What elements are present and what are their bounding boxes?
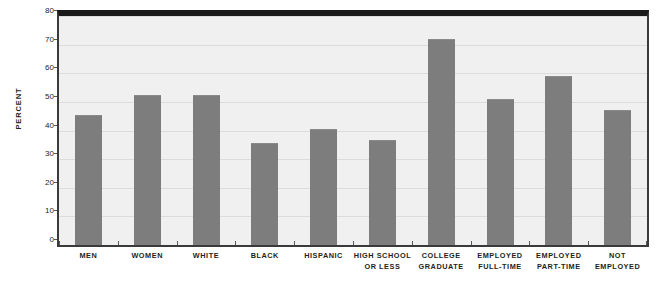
x-tick-mark: [412, 241, 413, 245]
plot-inner: [59, 16, 647, 245]
x-axis-category-label: Black: [235, 250, 294, 261]
bar: [310, 129, 337, 246]
x-tick-mark: [588, 241, 589, 245]
x-axis-category-label: EmployedFull-time: [471, 250, 530, 272]
x-tick-mark: [646, 241, 647, 245]
x-axis-category-label: Men: [59, 250, 118, 261]
x-label-line-1: High School: [354, 251, 412, 260]
x-label-line-1: College: [422, 251, 461, 260]
x-axis-category-label: EmployedPart-time: [529, 250, 588, 272]
x-axis-category-label: Hispanic: [294, 250, 353, 261]
x-label-line-1: Not: [609, 251, 626, 260]
bar: [134, 95, 161, 245]
x-axis-labels: MenWomenWhiteBlackHispanicHigh Schoolor …: [59, 250, 647, 290]
bar: [251, 143, 278, 245]
y-tick-label: 80: [28, 6, 54, 15]
x-label-line-1: White: [193, 251, 219, 260]
x-tick-mark: [294, 241, 295, 245]
x-tick-mark: [235, 241, 236, 245]
x-tick-mark: [59, 241, 60, 245]
y-tick-label: 70: [28, 35, 54, 44]
x-axis-category-label: High Schoolor Less: [353, 250, 412, 272]
y-tick-label: 0: [28, 235, 54, 244]
bar: [487, 99, 514, 245]
x-label-line-2: Full-time: [471, 261, 530, 272]
x-label-line-1: Hispanic: [304, 251, 343, 260]
x-axis-ticks: [59, 241, 647, 246]
x-tick-mark: [353, 241, 354, 245]
bar: [193, 95, 220, 245]
x-label-line-2: Employed: [588, 261, 647, 272]
y-tick-label: 50: [28, 92, 54, 101]
bar: [545, 76, 572, 245]
plot-area: [57, 10, 649, 247]
x-label-line-1: Women: [131, 251, 163, 260]
y-tick-label: 10: [28, 206, 54, 215]
gridline: [59, 16, 647, 17]
x-label-line-2: Part-time: [529, 261, 588, 272]
y-tick-label: 60: [28, 63, 54, 72]
x-label-line-1: Employed: [477, 251, 522, 260]
x-tick-mark: [529, 241, 530, 245]
bar: [75, 115, 102, 245]
x-label-line-1: Men: [79, 251, 97, 260]
bar-chart-figure: Percent 01020304050607080 MenWomenWhiteB…: [0, 0, 667, 292]
x-axis-category-label: NotEmployed: [588, 250, 647, 272]
y-tick-label: 30: [28, 149, 54, 158]
bar: [428, 39, 455, 245]
y-tick-label: 40: [28, 121, 54, 130]
x-label-line-1: Black: [251, 251, 279, 260]
x-tick-mark: [118, 241, 119, 245]
bar: [604, 110, 631, 245]
bar: [369, 140, 396, 245]
x-label-line-1: Employed: [536, 251, 581, 260]
gridline: [59, 45, 647, 46]
gridline: [59, 73, 647, 74]
x-axis-category-label: White: [177, 250, 236, 261]
y-axis-ticks: 01020304050607080: [24, 10, 54, 239]
x-axis-category-label: CollegeGraduate: [412, 250, 471, 272]
x-label-line-2: Graduate: [412, 261, 471, 272]
y-tick-label: 20: [28, 178, 54, 187]
x-label-line-2: or Less: [353, 261, 412, 272]
y-axis-title: Percent: [14, 59, 23, 159]
x-axis-category-label: Women: [118, 250, 177, 261]
x-tick-mark: [177, 241, 178, 245]
x-tick-mark: [471, 241, 472, 245]
